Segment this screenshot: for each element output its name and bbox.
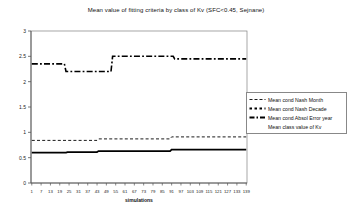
x-tick-label: 121 [215,189,223,194]
series-line-0 [32,56,246,71]
x-tick-label: 115 [205,189,212,194]
y-tick-label: 0.5 [19,155,26,161]
x-tick-label: 19 [57,189,62,194]
x-tick-label: 79 [151,189,156,194]
legend-item: Mean class value of Kv [249,122,345,131]
y-tick-label: 0 [23,180,26,186]
x-tick-label: 37 [85,189,90,194]
x-tick-label: 139 [243,189,251,194]
y-tick-label: 3 [23,28,26,34]
x-tick-label: 55 [113,189,118,194]
x-tick-label: 7 [40,189,43,194]
legend-sample-bold-square-dash [249,105,266,112]
x-tick-label: 103 [187,189,195,194]
legend-sample-thin-dashed [249,96,266,103]
x-tick-label: 49 [104,189,109,194]
legend: Mean cond Nash MonthMean cond Nash Decad… [246,92,347,134]
legend-item: Mean cond Nash Month [249,95,345,104]
legend-label: Mean cond Absol Error year [268,115,332,121]
x-tick-label: 43 [95,189,100,194]
x-tick-label: 67 [132,189,137,194]
y-tick-label: 1.5 [19,104,26,110]
y-tick-label: 1 [23,129,26,135]
x-axis-title: simulations [31,197,247,203]
legend-sample-no-sample [249,123,266,130]
x-tick-label: 61 [123,189,128,194]
legend-item: Mean cond Nash Decade [249,104,345,113]
x-tick-label: 25 [67,189,72,194]
legend-sample-bold-dash-dot [249,114,266,121]
legend-item: Mean cond Absol Error year [249,113,345,122]
legend-label: Mean cond Nash Decade [268,106,327,112]
series-line-1 [32,137,246,141]
x-tick-label: 73 [141,189,146,194]
x-tick-label: 109 [196,189,204,194]
legend-label: Mean cond Nash Month [268,97,323,103]
legend-label: Mean class value of Kv [268,124,321,130]
plot-area [31,31,247,183]
y-tick-label: 2.5 [19,53,26,59]
x-tick-label: 127 [224,189,232,194]
x-tick-label: 31 [76,189,81,194]
x-tick-label: 97 [179,189,184,194]
y-tick-label: 2 [23,79,26,85]
x-tick-label: 133 [233,189,241,194]
series-line-2 [32,150,246,153]
x-tick-label: 13 [48,189,53,194]
chart-canvas: Mean value of fitting criteria by class … [0,0,352,224]
x-tick-label: 85 [160,189,165,194]
x-tick-label: 91 [169,189,174,194]
x-tick-label: 1 [31,189,34,194]
